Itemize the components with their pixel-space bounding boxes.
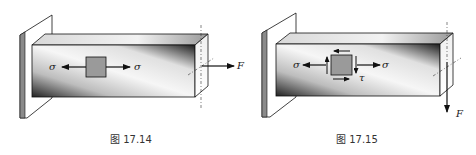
- force-label: F: [236, 60, 245, 71]
- diagram-svg: σ σ F 图 17.14: [0, 0, 476, 155]
- figure-caption: 图 17.14: [110, 134, 152, 145]
- figure-caption: 图 17.15: [336, 134, 378, 145]
- sigma-left-label: σ: [293, 59, 301, 70]
- sigma-left-label: σ: [49, 61, 57, 72]
- tau-label: τ: [359, 72, 365, 83]
- figure-17-14: σ σ F 图 17.14: [20, 15, 245, 145]
- beam: [276, 22, 461, 96]
- figure-17-15: σ σ τ F 图 17.15: [262, 13, 464, 145]
- sigma-right-label: σ: [382, 59, 390, 70]
- sigma-right-label: σ: [134, 61, 142, 72]
- force-label: F: [455, 108, 464, 119]
- figure-canvas: σ σ F 图 17.14: [0, 0, 476, 155]
